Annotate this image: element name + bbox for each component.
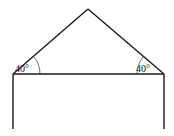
left-angle-arc [34,57,40,74]
left-angle-label: 40° [15,63,29,74]
right-angle-label: 40° [136,63,150,74]
roof-truss-diagram: 40° 40° [0,0,174,136]
right-roof-edge [88,9,164,74]
